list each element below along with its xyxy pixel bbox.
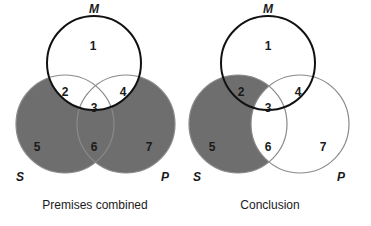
label-m: M xyxy=(89,2,100,16)
region-3: 3 xyxy=(265,101,272,115)
label-s: S xyxy=(16,170,24,184)
label-p: P xyxy=(337,170,346,184)
region-5: 5 xyxy=(34,140,41,154)
region-3: 3 xyxy=(91,101,98,115)
region-6: 6 xyxy=(265,140,272,154)
venn-diagrams: M S P 1 2 3 4 5 6 7 M S P 1 2 3 4 5 6 7 xyxy=(0,0,371,226)
shaded-region xyxy=(16,75,175,173)
label-s: S xyxy=(193,170,201,184)
region-6: 6 xyxy=(91,140,98,154)
region-2: 2 xyxy=(238,85,245,99)
region-7: 7 xyxy=(146,140,153,154)
region-1: 1 xyxy=(265,39,272,53)
label-p: P xyxy=(161,170,170,184)
region-4: 4 xyxy=(295,85,302,99)
venn-premises-combined: M S P 1 2 3 4 5 6 7 xyxy=(16,2,175,184)
region-4: 4 xyxy=(120,85,127,99)
label-m: M xyxy=(263,2,274,16)
region-7: 7 xyxy=(320,140,327,154)
caption-premises-combined: Premises combined xyxy=(15,198,175,212)
venn-conclusion: M S P 1 2 3 4 5 6 7 xyxy=(189,2,349,184)
region-1: 1 xyxy=(90,39,97,53)
caption-conclusion: Conclusion xyxy=(190,198,350,212)
region-2: 2 xyxy=(62,85,69,99)
region-5: 5 xyxy=(209,140,216,154)
